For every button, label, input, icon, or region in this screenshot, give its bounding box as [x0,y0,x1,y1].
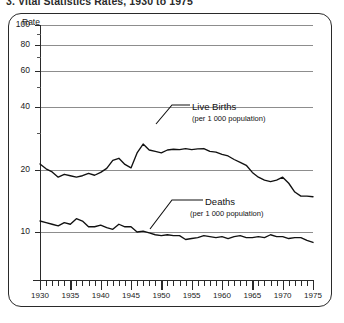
series-lines [0,0,344,323]
live-births-leader-line [156,105,190,124]
live-births-sublabel: (per 1 000 population) [192,114,265,123]
deaths-sublabel: (per 1 000 population) [190,209,263,218]
deaths-label: Deaths [205,196,235,207]
plot-area: 1020406080100 19301935194019451950195519… [0,0,344,323]
live-births-line [40,144,313,197]
live-births-label: Live Births [192,101,236,112]
deaths-line [40,219,313,243]
